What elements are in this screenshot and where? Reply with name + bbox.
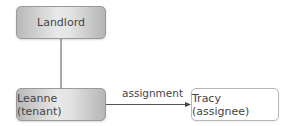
node-leanne-tenant: Leanne (tenant) [16, 88, 106, 121]
node-label: Landlord [37, 16, 85, 29]
node-landlord: Landlord [16, 6, 106, 39]
node-label: Tracy (assignee) [192, 92, 278, 118]
node-tracy-assignee: Tracy (assignee) [191, 88, 279, 121]
node-label: Leanne (tenant) [17, 92, 105, 118]
edge-label-assignment: assignment [122, 87, 183, 99]
